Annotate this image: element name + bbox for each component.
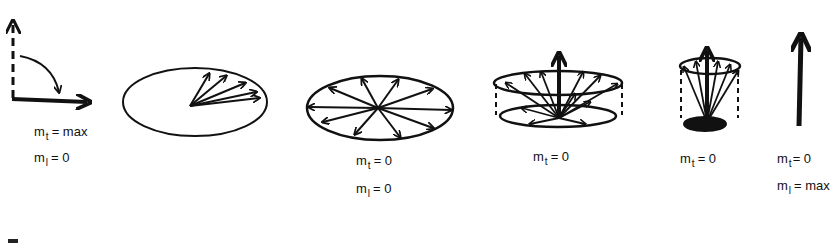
longitudinal-arrow-icon bbox=[799, 38, 801, 126]
subscript: l bbox=[368, 188, 370, 199]
panel-5-narrow-cone-figure bbox=[680, 51, 740, 131]
value: = 0 bbox=[374, 153, 392, 168]
panel-3-ml-label: ml= 0 bbox=[356, 181, 392, 198]
cropped-panel-marker bbox=[8, 239, 18, 243]
subscript: l bbox=[789, 185, 791, 196]
value: = 0 bbox=[373, 181, 391, 196]
panel-6-ml-label: ml= max bbox=[777, 178, 830, 195]
var: m bbox=[356, 181, 367, 196]
subscript: t bbox=[368, 160, 371, 171]
panel-6-mt-label: mt= 0 bbox=[777, 151, 811, 168]
panel-1-ml-label: ml= 0 bbox=[34, 150, 70, 167]
subscript: t bbox=[692, 158, 695, 169]
value: = max bbox=[794, 178, 830, 193]
value: = 0 bbox=[698, 151, 716, 166]
var: m bbox=[34, 124, 45, 139]
value: = 0 bbox=[51, 150, 69, 165]
value: = 0 bbox=[551, 149, 569, 164]
panel-3-dephased-figure bbox=[307, 76, 453, 140]
var: m bbox=[680, 151, 691, 166]
subscript: t bbox=[789, 158, 792, 169]
panel-3-mt-label: mt= 0 bbox=[356, 153, 392, 170]
var: m bbox=[34, 150, 45, 165]
var: m bbox=[777, 178, 788, 193]
subscript: t bbox=[46, 131, 49, 142]
var: m bbox=[533, 149, 544, 164]
var: m bbox=[777, 151, 788, 166]
value: = 0 bbox=[793, 151, 811, 166]
panel-1-mt-label: mt= max bbox=[34, 124, 87, 141]
subscript: l bbox=[46, 157, 48, 168]
curved-rotation-arrow-icon bbox=[20, 56, 59, 92]
value: = max bbox=[52, 124, 88, 139]
panel-6-full-longitudinal-figure bbox=[799, 38, 801, 126]
var: m bbox=[356, 153, 367, 168]
panel-1-flip-figure bbox=[12, 22, 87, 102]
panel-4-mt-label: mt= 0 bbox=[533, 149, 569, 166]
panel-4-wide-cone-figure bbox=[494, 56, 622, 127]
magnetization-diagram bbox=[0, 0, 840, 243]
panel-2-dephasing-start-figure bbox=[123, 68, 267, 136]
horizontal-arrow-icon bbox=[12, 99, 87, 102]
panel-5-mt-label: mt= 0 bbox=[680, 151, 716, 168]
subscript: t bbox=[545, 156, 548, 167]
